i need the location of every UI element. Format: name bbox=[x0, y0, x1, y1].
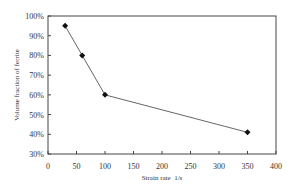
x-tick-label: 50 bbox=[73, 162, 81, 171]
data-point-marker bbox=[62, 23, 68, 29]
x-tick-label: 100 bbox=[99, 162, 111, 171]
plot-area bbox=[48, 16, 276, 154]
x-tick-label: 150 bbox=[128, 162, 140, 171]
y-tick-label: 40% bbox=[29, 130, 44, 139]
data-point-marker bbox=[245, 129, 251, 135]
data-point-marker bbox=[102, 92, 108, 98]
y-tick-label: 60% bbox=[29, 91, 44, 100]
data-line bbox=[65, 26, 247, 132]
line-chart: 30%40%50%60%70%80%90%100% 05010015020025… bbox=[0, 0, 297, 195]
y-tick-label: 100% bbox=[25, 12, 44, 21]
y-tick-label: 90% bbox=[29, 32, 44, 41]
y-tick-label: 70% bbox=[29, 71, 44, 80]
data-point-marker bbox=[79, 52, 85, 58]
x-tick-label: 250 bbox=[185, 162, 197, 171]
x-tick-label: 350 bbox=[242, 162, 254, 171]
y-axis: 30%40%50%60%70%80%90%100% bbox=[25, 12, 51, 159]
y-axis-title: Volume fraction of ferrite bbox=[13, 49, 21, 121]
x-tick-label: 200 bbox=[156, 162, 168, 171]
x-axis-title: Strain rate 1/s bbox=[142, 174, 183, 182]
y-tick-label: 50% bbox=[29, 111, 44, 120]
y-tick-label: 80% bbox=[29, 51, 44, 60]
x-tick-label: 300 bbox=[213, 162, 225, 171]
y-tick-label: 30% bbox=[29, 150, 44, 159]
data-markers bbox=[62, 23, 250, 135]
x-tick-label: 0 bbox=[46, 162, 50, 171]
x-tick-label: 400 bbox=[270, 162, 282, 171]
